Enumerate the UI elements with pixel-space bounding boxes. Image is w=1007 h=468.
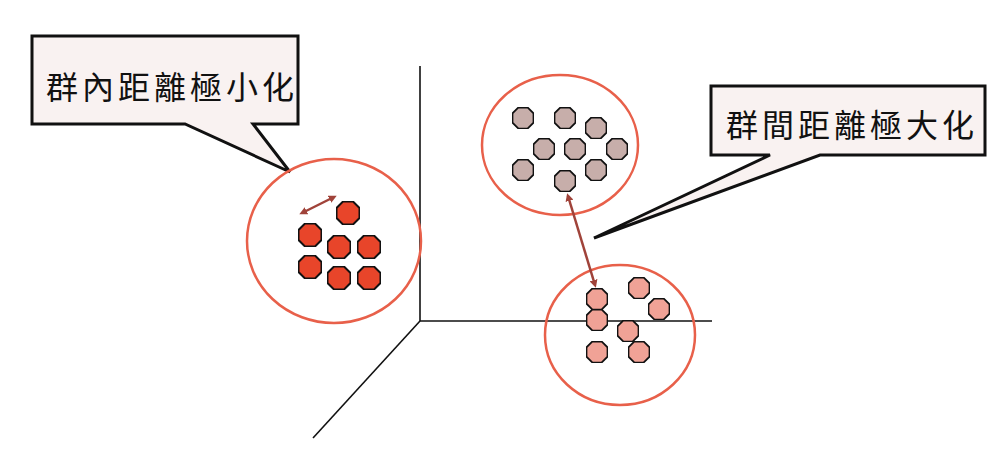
cluster-left xyxy=(247,159,421,323)
z-axis xyxy=(313,321,420,438)
callout-inter-label: 群間距離極大化 xyxy=(726,100,978,146)
clustering-diagram: 群內距離極小化 群間距離極大化 xyxy=(0,0,1007,468)
callout-intra-label: 群內距離極小化 xyxy=(46,62,298,108)
cluster-top xyxy=(482,75,638,215)
intra-distance-arrow xyxy=(302,197,334,213)
cluster-bottom xyxy=(545,265,695,405)
